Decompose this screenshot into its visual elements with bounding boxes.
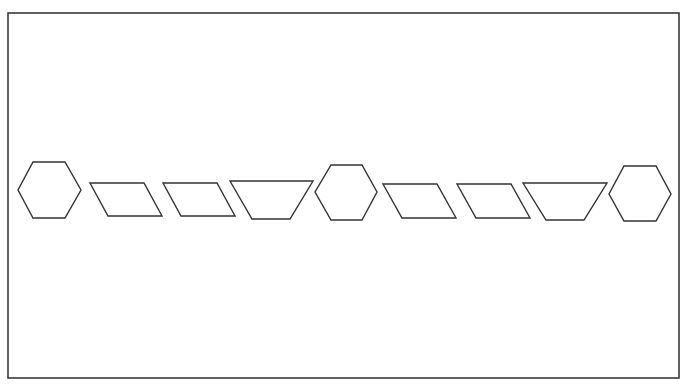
pattern-diagram: [0, 0, 682, 385]
